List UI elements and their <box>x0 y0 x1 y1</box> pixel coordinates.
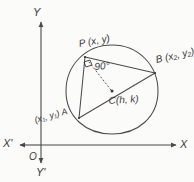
right-angle-value-label: 90° <box>94 61 110 72</box>
geometry-figure: Y Y' X X' O P (x, y) B (x₂, y₂) (x₁, y₁)… <box>0 0 194 182</box>
center-point-marker <box>111 90 114 93</box>
y-axis-positive-label: Y <box>33 7 40 18</box>
vertex-b-dot <box>154 72 156 74</box>
y-axis-negative-label: Y' <box>36 167 45 178</box>
vertex-p-dot <box>84 56 86 58</box>
segment-pa <box>79 57 85 118</box>
inscribed-triangle <box>79 57 155 118</box>
origin-label: O <box>29 152 37 162</box>
right-angle-marker-icon <box>84 60 92 67</box>
vertex-a-dot <box>78 117 80 119</box>
x-axis-positive-label: X <box>180 139 187 150</box>
point-c-center-label: C(h, k) <box>108 94 139 106</box>
x-axis-negative-label: X' <box>3 138 12 149</box>
